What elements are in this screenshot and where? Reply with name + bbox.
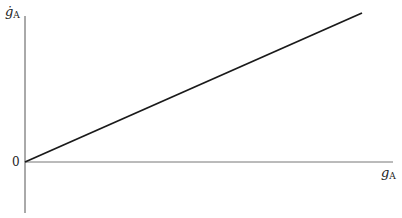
linear-relation-line [25, 13, 362, 162]
origin-label: 0 [12, 155, 20, 169]
diagram-canvas [0, 0, 402, 218]
x-axis-label: gA [381, 166, 396, 181]
y-axis-label: ġA [5, 5, 20, 20]
